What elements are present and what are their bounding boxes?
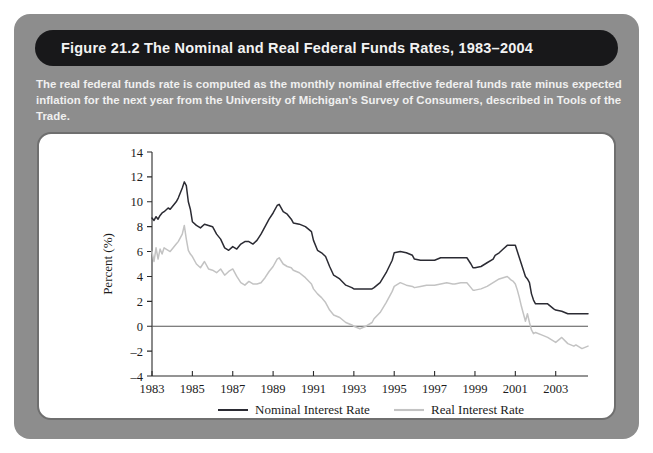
legend-label: Real Interest Rate (431, 402, 524, 417)
y-tick-label: 12 (131, 170, 144, 184)
x-tick-label: 1983 (140, 382, 165, 396)
legend-label: Nominal Interest Rate (255, 402, 370, 417)
chart-card: 14121086420–2–41983198519871989199119931… (37, 132, 616, 420)
x-tick-label: 1997 (422, 382, 447, 396)
y-tick-label: 14 (131, 146, 144, 160)
x-tick-label: 1991 (301, 382, 326, 396)
figure-caption: The real federal funds rate is computed … (36, 76, 624, 124)
y-tick-label: 6 (137, 245, 143, 259)
figure-title: Figure 21.2 The Nominal and Real Federal… (35, 40, 533, 56)
x-tick-label: 1985 (180, 382, 205, 396)
series-line-nominal (152, 182, 588, 314)
y-tick-label: 4 (137, 270, 144, 284)
y-axis-title: Percent (%) (100, 233, 115, 295)
y-tick-label: 0 (137, 320, 143, 334)
y-tick-label: 10 (131, 195, 144, 209)
x-tick-label: 1993 (341, 382, 366, 396)
x-tick-label: 1987 (220, 382, 245, 396)
y-tick-label: 8 (137, 220, 143, 234)
figure-panel: Figure 21.2 The Nominal and Real Federal… (14, 14, 639, 439)
x-tick-label: 1999 (462, 382, 487, 396)
x-tick-label: 2003 (543, 382, 568, 396)
figure-title-bar: Figure 21.2 The Nominal and Real Federal… (35, 30, 618, 66)
x-tick-label: 1989 (261, 382, 286, 396)
y-tick-label: 2 (137, 295, 143, 309)
x-tick-label: 2001 (503, 382, 528, 396)
plot-area: 14121086420–2–41983198519871989199119931… (100, 146, 588, 418)
y-tick-label: –2 (130, 345, 144, 359)
series-line-real (152, 225, 588, 348)
x-tick-label: 1995 (382, 382, 407, 396)
line-chart: 14121086420–2–41983198519871989199119931… (39, 134, 614, 418)
